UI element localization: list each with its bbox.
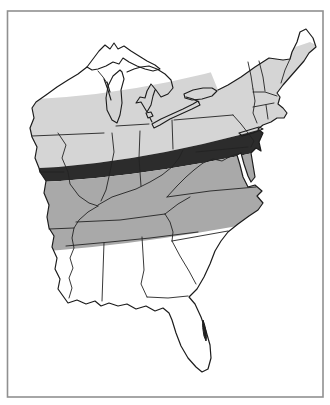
north-light-band — [15, 42, 318, 169]
shaded-bands-layer — [15, 42, 318, 253]
map-figure-container — [0, 0, 330, 405]
florida-lagoon-mark — [203, 320, 207, 341]
border-ga-sc — [172, 241, 196, 284]
lake-superior — [87, 43, 160, 71]
border-ms-al — [102, 243, 104, 301]
eastern-us-band-map — [0, 0, 330, 405]
border-mi-up-wi — [98, 71, 107, 83]
border-ga-fl — [147, 296, 188, 298]
border-al-ga — [141, 237, 147, 297]
